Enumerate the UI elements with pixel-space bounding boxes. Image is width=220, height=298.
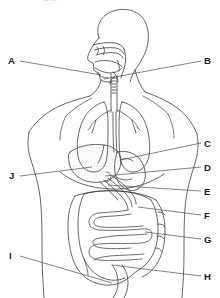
- oral-cavity-and-tongue: [95, 61, 122, 79]
- label-j[interactable]: J: [9, 171, 14, 181]
- label-c[interactable]: C: [204, 139, 211, 149]
- label-a[interactable]: A: [8, 56, 15, 66]
- nasal-cavity: [93, 43, 124, 58]
- label-h[interactable]: H: [204, 272, 211, 282]
- label-g[interactable]: G: [204, 235, 212, 245]
- label-d[interactable]: D: [204, 163, 211, 173]
- label-e[interactable]: E: [204, 187, 211, 197]
- pharynx-larynx: [110, 49, 126, 84]
- human-anatomy-line-drawing: [0, 0, 220, 298]
- caecum-appendix: [84, 259, 88, 275]
- small-intestine: [89, 210, 152, 260]
- large-intestine: [68, 191, 165, 298]
- label-b[interactable]: B: [204, 56, 211, 66]
- oesophagus: [113, 112, 117, 152]
- leader-line-F: [138, 207, 201, 215]
- trachea: [111, 74, 117, 112]
- neck-outline: [90, 70, 145, 96]
- label-f[interactable]: F: [204, 211, 210, 221]
- label-i[interactable]: I: [9, 251, 12, 261]
- diagram-canvas: g y: [0, 0, 220, 298]
- leader-line-C: [120, 143, 201, 160]
- leader-line-G: [145, 232, 201, 239]
- leader-line-A: [20, 61, 101, 75]
- bronchi: [88, 110, 140, 133]
